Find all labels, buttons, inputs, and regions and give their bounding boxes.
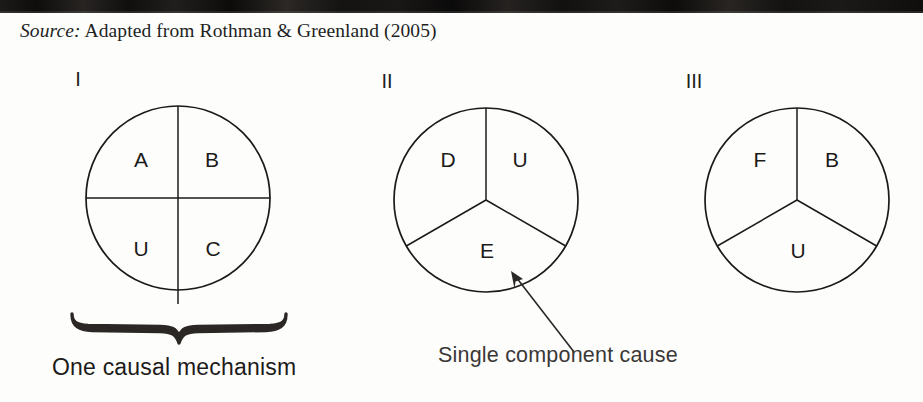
pie-iii-sector-label-b: B bbox=[825, 148, 839, 171]
pie-iii-divider-lower-left bbox=[717, 200, 797, 246]
pie-ii-sector-label-d: D bbox=[440, 148, 455, 171]
pie-iii-roman-numeral: III bbox=[686, 70, 703, 92]
brace-path bbox=[72, 314, 286, 343]
one-causal-mechanism-brace bbox=[72, 314, 286, 343]
arrow-shaft bbox=[516, 277, 574, 352]
figure-canvas: Source: Adapted from Rothman & Greenland… bbox=[0, 0, 923, 402]
pie-ii-roman-numeral: II bbox=[381, 70, 392, 92]
pie-i-roman-numeral: I bbox=[75, 68, 81, 90]
pie-i-sector-label-u: U bbox=[133, 237, 148, 260]
pie-diagram-ii: II D U E bbox=[381, 70, 578, 292]
pie-ii-divider-lower-right bbox=[486, 200, 566, 246]
pie-ii-sector-label-u: U bbox=[512, 148, 527, 171]
pie-diagram-iii: III F B U bbox=[686, 70, 889, 292]
pie-i-sector-label-b: B bbox=[205, 148, 219, 171]
pie-ii-sector-label-e: E bbox=[480, 239, 494, 262]
caption-single-component-cause: Single component cause bbox=[438, 343, 678, 368]
caption-one-causal-mechanism: One causal mechanism bbox=[52, 354, 296, 381]
pie-iii-sector-label-f: F bbox=[754, 148, 767, 171]
pie-iii-divider-lower-right bbox=[797, 200, 877, 246]
pie-i-sector-label-c: C bbox=[205, 237, 220, 260]
pie-diagram-i: I A B U C bbox=[75, 68, 270, 304]
pie-ii-divider-lower-left bbox=[406, 200, 486, 246]
pie-iii-sector-label-u: U bbox=[790, 239, 805, 262]
pie-i-sector-label-a: A bbox=[134, 148, 148, 171]
causal-pies-diagram: I A B U C II D U E bbox=[0, 0, 923, 402]
single-component-cause-arrow bbox=[511, 271, 574, 352]
